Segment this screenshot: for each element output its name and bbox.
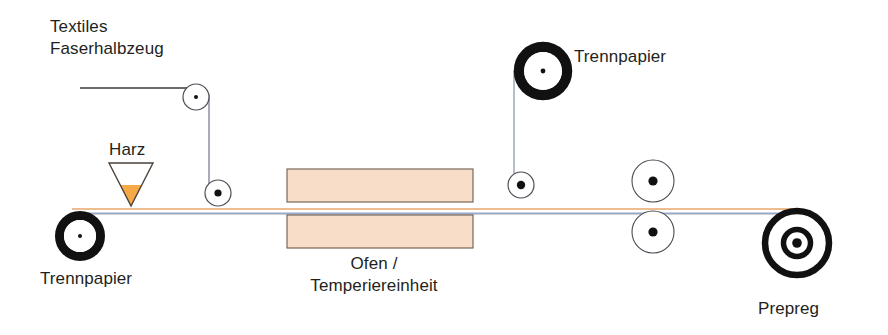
- label-ofen-temperiereinheit: Ofen /Temperiereinheit: [274, 253, 474, 297]
- roller-trennpapier-merge: [508, 172, 534, 198]
- label-trennpapier-left: Trennpapier: [40, 268, 132, 290]
- roller-calender-bottom: [632, 211, 674, 253]
- oven-block-bottom: [287, 215, 473, 248]
- roller-hub: [648, 176, 657, 185]
- roll-hub-dot: [792, 238, 802, 248]
- roller-textile-top: [183, 84, 209, 110]
- label-ofen-line1: Ofen /: [351, 254, 398, 273]
- supply-roll-top: [519, 47, 567, 95]
- roller-hub: [517, 181, 525, 189]
- supply-roll-left: [60, 216, 101, 257]
- prepreg-process-diagram: TextilesFaserhalbzeug Harz Trennpapier T…: [0, 0, 888, 335]
- roller-textile-bottom: [205, 180, 231, 206]
- label-textiles-line2: Faserhalbzeug: [50, 39, 164, 58]
- oven-block-top: [287, 169, 473, 202]
- resin-fill: [120, 185, 142, 206]
- label-textiles-faserhalbzeug: TextilesFaserhalbzeug: [50, 16, 164, 60]
- roll-hub-dot: [541, 69, 546, 74]
- label-textiles-line1: Textiles: [50, 17, 108, 36]
- roller-hub: [214, 189, 221, 196]
- label-ofen-line2: Temperiereinheit: [310, 276, 437, 295]
- label-harz: Harz: [109, 139, 145, 161]
- roll-hub-dot: [78, 234, 82, 238]
- wind-up-roll-prepreg: [765, 211, 829, 275]
- roller-calender-top: [632, 160, 674, 202]
- roller-hub: [648, 227, 657, 236]
- label-prepreg: Prepreg: [758, 298, 819, 320]
- label-trennpapier-top: Trennpapier: [574, 46, 666, 68]
- resin-funnel: [109, 163, 153, 206]
- roller-hub: [194, 95, 198, 99]
